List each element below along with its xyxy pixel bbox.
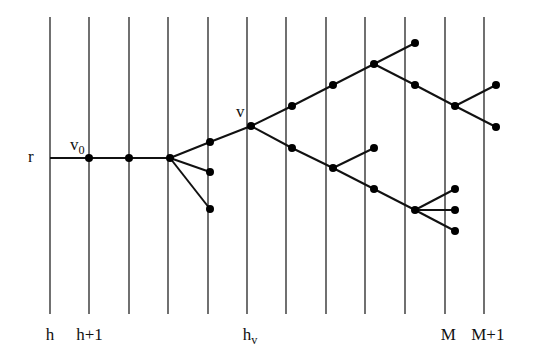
node-d2 bbox=[329, 164, 337, 172]
edge-u5-u6a bbox=[455, 85, 496, 106]
labels: rv0vhh+1hvMM+1 bbox=[28, 102, 504, 347]
node-v bbox=[247, 122, 255, 130]
node-n4c bbox=[206, 205, 214, 213]
node-u4b bbox=[411, 81, 419, 89]
edge-u2-u3 bbox=[333, 64, 374, 85]
node-label-v0: v0 bbox=[70, 135, 85, 157]
node-u6a bbox=[492, 81, 500, 89]
edge-u1-u2 bbox=[292, 85, 333, 106]
diagram-svg: rv0vhh+1hvMM+1 bbox=[0, 0, 537, 358]
level-lines bbox=[50, 17, 484, 314]
node-u3 bbox=[370, 60, 378, 68]
node-d3b bbox=[370, 185, 378, 193]
node-v0 bbox=[85, 154, 93, 162]
node-u5 bbox=[451, 102, 459, 110]
tree-diagram: rv0vhh+1hvMM+1 bbox=[0, 0, 537, 358]
node-d5b bbox=[451, 206, 459, 214]
node-n2 bbox=[125, 154, 133, 162]
edge-u4b-u5 bbox=[415, 85, 455, 106]
node-label-v: v bbox=[236, 102, 245, 121]
edge-u3-u4b bbox=[374, 64, 415, 85]
tree-nodes bbox=[85, 39, 500, 235]
node-u4a bbox=[411, 39, 419, 47]
node-d4 bbox=[411, 206, 419, 214]
edge-n4a-v bbox=[210, 126, 251, 142]
level-label-10: M bbox=[441, 325, 456, 344]
edge-d1-d2 bbox=[292, 148, 333, 168]
node-n4a bbox=[206, 138, 214, 146]
edge-d3b-d4 bbox=[374, 189, 415, 210]
edge-d2-d3b bbox=[333, 168, 374, 189]
node-d5c bbox=[451, 227, 459, 235]
node-d1 bbox=[288, 144, 296, 152]
edge-d2-d3a bbox=[333, 148, 374, 168]
edge-u3-u4a bbox=[374, 43, 415, 64]
tree-edges bbox=[50, 43, 496, 231]
level-label-1: h+1 bbox=[76, 325, 103, 344]
level-label-5: hv bbox=[243, 325, 259, 347]
node-n4b bbox=[206, 168, 214, 176]
edge-u5-u6b bbox=[455, 106, 496, 127]
node-d5a bbox=[451, 185, 459, 193]
level-label-11: M+1 bbox=[471, 325, 504, 344]
edge-d4-d5c bbox=[415, 210, 455, 231]
edge-d4-d5a bbox=[415, 189, 455, 210]
node-d3a bbox=[370, 144, 378, 152]
node-label-r: r bbox=[28, 147, 34, 166]
node-n3 bbox=[166, 154, 174, 162]
node-u1 bbox=[288, 102, 296, 110]
level-label-0: h bbox=[46, 325, 55, 344]
edge-n3-n4a bbox=[170, 142, 210, 158]
node-u2 bbox=[329, 81, 337, 89]
node-u6b bbox=[492, 123, 500, 131]
